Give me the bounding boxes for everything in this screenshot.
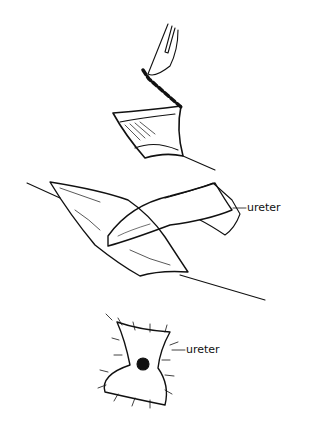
ureter-orifice [137,358,149,370]
ureter-label-2: ureter [186,343,220,356]
ureter-label-1: ureter [247,201,281,214]
bladder-flap-2 [27,182,265,300]
bladder-flap-1 [113,106,215,170]
incision-dashed-line [143,70,181,107]
sutured-flap [98,314,178,408]
scalpel-icon [148,24,178,75]
ureter [108,183,240,246]
